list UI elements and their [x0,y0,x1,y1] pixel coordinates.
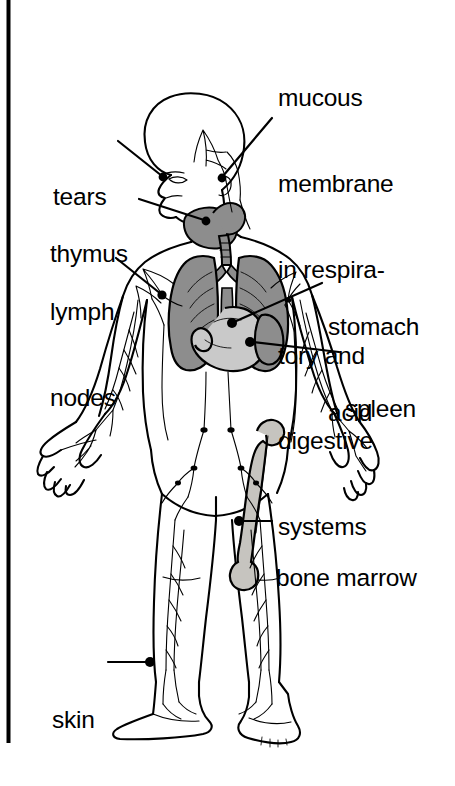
label-line: nodes [50,384,116,413]
label-line: spleen [345,395,416,424]
leader-skin [108,657,155,667]
label-line: skin [52,706,95,735]
label-skin: skin [52,649,95,786]
label-line: membrane [278,170,394,199]
label-spleen: spleen [345,338,416,481]
label-line: bone marrow [276,564,417,593]
label-bone-marrow: bone marrow [276,507,417,650]
label-line: mucous [278,84,394,113]
leader-tears [118,141,167,181]
leader-mucous-membrane [218,118,272,182]
label-lymph-nodes: lymph nodes [50,241,116,470]
thymus-organ [184,203,245,249]
label-line: lymph [50,298,116,327]
diagram-canvas: .st{fill:none;stroke:#000;stroke-width:2… [0,0,455,786]
